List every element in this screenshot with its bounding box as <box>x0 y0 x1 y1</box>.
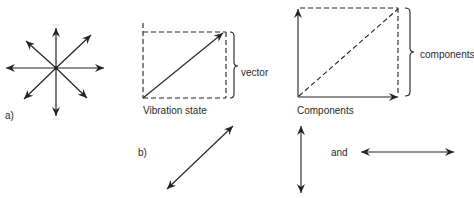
vector-label: vector <box>241 68 268 78</box>
panel-a-label: a) <box>5 111 14 121</box>
components-label: components <box>420 50 474 60</box>
arrow-sw <box>24 68 56 99</box>
vector-brace <box>230 32 238 98</box>
components-figure <box>298 8 414 97</box>
components-caption: Components <box>297 106 354 116</box>
vibration-state-caption: Vibration state <box>143 106 207 116</box>
arrow-ne <box>56 35 91 68</box>
and-label: and <box>331 148 348 158</box>
panel-b-arrows <box>167 126 454 193</box>
vibration-vector-arrow <box>143 33 223 98</box>
arrow-se <box>56 68 87 98</box>
star-arrows <box>6 28 104 116</box>
panel-b-label: b) <box>138 148 147 158</box>
components-brace <box>405 8 414 96</box>
vibration-state-figure <box>143 23 238 98</box>
diagonal-double-arrow <box>167 126 233 189</box>
arrow-nw <box>26 41 56 68</box>
